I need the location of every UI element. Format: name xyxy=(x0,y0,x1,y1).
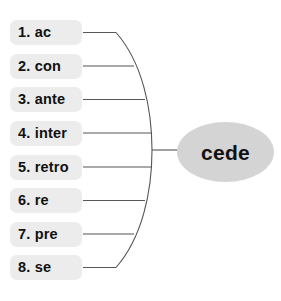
prefix-chip-3[interactable]: 3. ante xyxy=(10,87,82,112)
prefix-chip-label-2: 2. con xyxy=(18,59,61,74)
prefix-chip-label-1: 1. ac xyxy=(18,25,51,40)
prefix-chip-label-8: 8. se xyxy=(18,260,51,275)
prefix-chip-4[interactable]: 4. inter xyxy=(10,121,82,146)
root-word-ellipse[interactable]: cede xyxy=(177,122,274,182)
prefix-chip-8[interactable]: 8. se xyxy=(10,255,82,280)
word-web-diagram: 1. ac 2. con 3. ante 4. inter 5. retro 6… xyxy=(0,0,281,301)
prefix-chip-2[interactable]: 2. con xyxy=(10,54,82,79)
brace-arc xyxy=(116,33,152,268)
prefix-chip-6[interactable]: 6. re xyxy=(10,188,82,213)
prefix-chip-7[interactable]: 7. pre xyxy=(10,222,82,247)
prefix-chip-1[interactable]: 1. ac xyxy=(10,20,82,45)
prefix-chip-label-5: 5. retro xyxy=(18,160,69,175)
prefix-chip-label-4: 4. inter xyxy=(18,126,67,141)
prefix-chip-label-3: 3. ante xyxy=(18,92,65,107)
prefix-chip-label-7: 7. pre xyxy=(18,227,58,242)
prefix-chip-5[interactable]: 5. retro xyxy=(10,155,82,180)
root-word-label: cede xyxy=(201,142,250,163)
prefix-chip-label-6: 6. re xyxy=(18,193,49,208)
